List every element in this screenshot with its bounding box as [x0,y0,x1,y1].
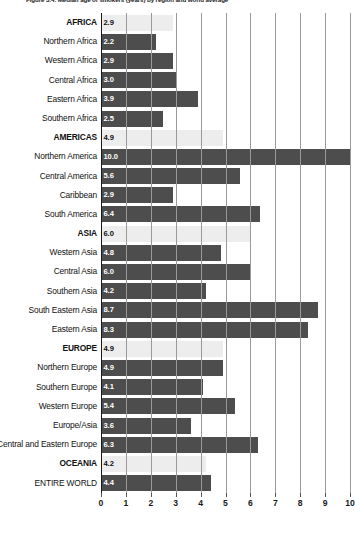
bar [101,322,308,338]
row-label: Central America [40,167,97,186]
bar-value-label: 2.9 [104,15,114,31]
bar-value-label: 4.8 [104,245,114,261]
bar [101,302,318,318]
bar-track: 2.5 [101,109,350,128]
bar-track: 4.4 [101,474,350,493]
bar [101,398,235,414]
bar-track: 4.2 [101,454,350,473]
bar [101,264,250,280]
bar-track: 2.2 [101,32,350,51]
bar-track: 5.4 [101,397,350,416]
row-label: AMERICAS [54,128,97,147]
row-label: EUROPE [63,339,97,358]
bar-track: 6.3 [101,435,350,454]
region-row: AFRICA2.9 [0,13,355,32]
subregion-row: Western Asia4.8 [0,243,355,262]
row-label: Southern Europe [36,378,97,397]
axis-tick-label: 8 [298,498,303,508]
bar [101,168,240,184]
row-label: Western Africa [45,51,97,70]
axis-tick [176,493,177,497]
bar [101,91,198,107]
row-label: AFRICA [66,13,97,32]
figure-title: Figure 3.4: Median age of smokers (years… [26,0,346,4]
bar [101,130,223,146]
axis-tick-label: 3 [173,498,178,508]
bar-track: 5.6 [101,167,350,186]
subregion-row: Central America5.6 [0,167,355,186]
bar-value-label: 10.0 [104,149,118,165]
row-label: ENTIRE WORLD [35,474,97,493]
bar-track: 6.0 [101,224,350,243]
bar-track: 4.1 [101,378,350,397]
row-label: Southern Africa [42,109,97,128]
subregion-row: Europe/Asia3.6 [0,416,355,435]
bar-value-label: 5.4 [104,398,114,414]
row-label: Caribbean [60,186,97,205]
axis-tick [325,493,326,497]
axis-tick [300,493,301,497]
bar [101,245,221,261]
bar [101,456,206,472]
subregion-row: Eastern Africa3.9 [0,90,355,109]
axis-tick-label: 2 [148,498,153,508]
axis-tick-label: 4 [198,498,203,508]
subregion-row: Northern America10.0 [0,147,355,166]
bar [101,379,203,395]
subregion-row: Central Africa3.0 [0,71,355,90]
row-label: Western Asia [50,243,97,262]
bar-track: 6.0 [101,262,350,281]
axis-tick [201,493,202,497]
subregion-row: Central and Eastern Europe6.3 [0,435,355,454]
bar [101,206,260,222]
axis-tick-label: 0 [99,498,104,508]
bar-track: 4.8 [101,243,350,262]
bar [101,226,250,242]
row-label: Northern Europe [37,358,97,377]
bar [101,283,206,299]
axis-tick-label: 5 [223,498,228,508]
bar-value-label: 4.1 [104,379,114,395]
bar-value-label: 4.2 [104,283,114,299]
subregion-row: Northern Europe4.9 [0,358,355,377]
bar-value-label: 3.6 [104,418,114,434]
bar-track: 2.9 [101,13,350,32]
region-row: EUROPE4.9 [0,339,355,358]
subregion-row: Northern Africa2.2 [0,32,355,51]
bar-track: 6.4 [101,205,350,224]
bar [101,341,223,357]
row-label: South America [44,205,97,224]
subregion-row: Eastern Asia8.3 [0,320,355,339]
subregion-row: Western Africa2.9 [0,51,355,70]
axis-tick-label: 6 [248,498,253,508]
axis-tick [226,493,227,497]
axis-tick [126,493,127,497]
row-label: Central and Eastern Europe [0,435,97,454]
chart-plot-area: AFRICA2.9Northern Africa2.2Western Afric… [0,13,355,521]
bar-track: 3.0 [101,71,350,90]
bar [101,360,223,376]
bar-value-label: 2.9 [104,53,114,69]
bar-track: 2.9 [101,186,350,205]
row-label: Western Europe [39,397,97,416]
bar [101,418,191,434]
bar-track: 4.9 [101,128,350,147]
row-label: Central Africa [49,71,97,90]
bar-track: 8.7 [101,301,350,320]
axis-tick-label: 7 [273,498,278,508]
row-label: Eastern Asia [52,320,97,339]
row-label: Eastern Africa [47,90,97,109]
subregion-row: South America6.4 [0,205,355,224]
axis-tick [350,493,351,497]
x-axis: 012345678910 [0,493,355,520]
bar-track: 2.9 [101,51,350,70]
bar-value-label: 6.0 [104,264,114,280]
subregion-row: Southern Asia4.2 [0,282,355,301]
axis-tick-label: 9 [323,498,328,508]
bar [101,437,258,453]
axis-tick [151,493,152,497]
row-label: South Eastern Asia [28,301,97,320]
bar-value-label: 2.5 [104,111,114,127]
row-label: Southern Asia [47,282,97,301]
bar-track: 10.0 [101,147,350,166]
